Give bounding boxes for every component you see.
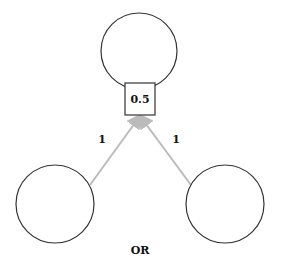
threshold-label: 0.5 xyxy=(130,93,149,106)
perceptron-diagram: 0.5 1 1 OR xyxy=(0,0,287,269)
output-node xyxy=(101,13,177,89)
edge-left xyxy=(90,116,140,185)
edge-right xyxy=(140,116,191,185)
weight-label-right: 1 xyxy=(172,133,180,146)
diagram-title: OR xyxy=(131,244,151,257)
weight-label-left: 1 xyxy=(98,133,106,146)
input-node-left xyxy=(16,165,94,243)
input-node-right xyxy=(186,165,264,243)
